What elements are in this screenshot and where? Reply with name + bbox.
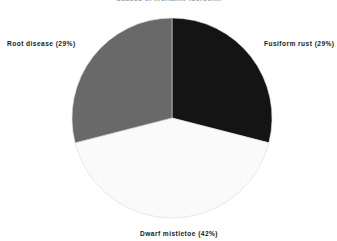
pie-label-dwarf-mistletoe: Dwarf mistletoe (42%) <box>140 229 218 238</box>
pie-label-fusiform-rust: Fusiform rust (29%) <box>264 39 334 48</box>
pie-chart-figure: Causes of mortality (percent) Root disea… <box>0 0 337 241</box>
pie-slices <box>72 18 272 218</box>
pie-label-root-disease: Root disease (29%) <box>7 39 76 48</box>
pie-chart-graphic <box>0 0 337 241</box>
